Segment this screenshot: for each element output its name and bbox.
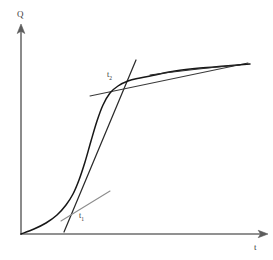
t2-label: t2 bbox=[107, 71, 112, 81]
t2-label-subscript: 2 bbox=[109, 75, 112, 81]
figure-canvas: Q t t1 t2 bbox=[0, 0, 273, 260]
y-axis-label: Q bbox=[17, 10, 24, 19]
x-axis-group bbox=[21, 230, 268, 237]
t1-label-subscript: 1 bbox=[81, 216, 84, 222]
x-axis-label: t bbox=[254, 243, 257, 252]
y-axis-group bbox=[17, 24, 25, 234]
t2-tangent-line bbox=[90, 63, 248, 96]
inflection-tangent-line bbox=[64, 60, 136, 232]
t1-tangent-line bbox=[61, 191, 110, 221]
plot-svg bbox=[0, 0, 273, 260]
sigmoid-curve bbox=[21, 64, 250, 234]
t1-label: t1 bbox=[79, 212, 84, 222]
